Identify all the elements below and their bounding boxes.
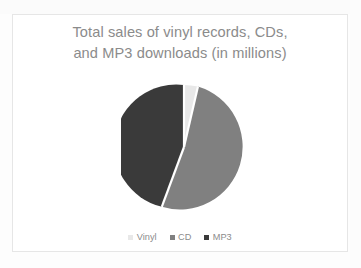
chart-title-line-1: Total sales of vinyl records, CDs,: [12, 22, 348, 43]
legend-swatch-vinyl: [128, 235, 133, 240]
legend-swatch-mp3: [204, 235, 209, 240]
slide-screenshot: Total sales of vinyl records, CDs, and M…: [0, 0, 361, 268]
pie-chart-svg: [121, 84, 247, 210]
legend-label-vinyl: Vinyl: [137, 232, 157, 243]
legend-item-mp3[interactable]: MP3: [204, 232, 231, 243]
scan-edge-top: [0, 0, 361, 14]
chart-legend: Vinyl CD MP3: [12, 232, 348, 243]
legend-label-mp3: MP3: [213, 232, 232, 243]
pie-chart: [121, 84, 247, 210]
scan-edge-right: [350, 0, 361, 268]
legend-swatch-cd: [170, 235, 175, 240]
chart-title-line-2: and MP3 downloads (in millions): [12, 43, 348, 64]
legend-item-cd[interactable]: CD: [170, 232, 192, 243]
legend-label-cd: CD: [178, 232, 191, 243]
chart-title: Total sales of vinyl records, CDs, and M…: [12, 14, 348, 64]
legend-item-vinyl[interactable]: Vinyl: [128, 232, 156, 243]
